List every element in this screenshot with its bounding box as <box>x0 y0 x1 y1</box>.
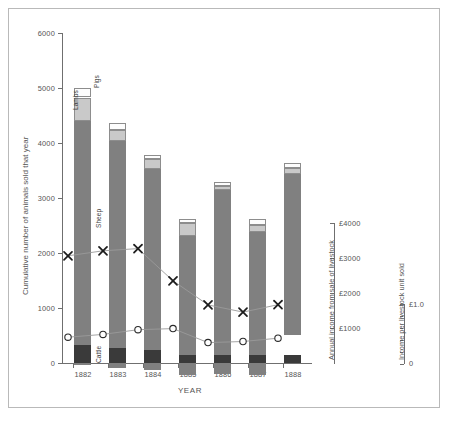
bar-segment-cattle-1882 <box>74 345 91 363</box>
x-tick-label-1883: 1883 <box>103 370 133 379</box>
income-line <box>68 249 278 313</box>
bar-segment-lambs-1887 <box>249 225 266 232</box>
y-tick-2000 <box>58 253 62 254</box>
bar-1888[interactable] <box>284 33 301 363</box>
bar-1886[interactable] <box>214 33 231 363</box>
right-2-tick-0 <box>400 364 404 365</box>
series-label-pigs: Pigs <box>93 75 100 88</box>
bar-segment-cattle-1884 <box>144 350 161 363</box>
x-tick-label-1882: 1882 <box>68 370 98 379</box>
bar-segment-cattle-1888 <box>284 355 301 363</box>
bar-1882[interactable] <box>74 33 91 363</box>
bar-segment-cattle-1885 <box>179 355 196 363</box>
bar-1884[interactable] <box>144 33 161 363</box>
x-tick-label-1884: 1884 <box>138 370 168 379</box>
bar-segment-cattle-1883 <box>109 348 126 363</box>
series-label-lambs: Lambs <box>72 90 79 110</box>
chart-plot-area: 6000 5000 4000 3000 2000 1000 0 Cumulati… <box>0 0 451 421</box>
left-axis-line <box>62 33 63 364</box>
series-label-cattle: Cattle <box>95 346 102 363</box>
right-1-tick-4000 <box>330 223 334 224</box>
x-tick-label-1888: 1888 <box>278 370 308 379</box>
y-tick-label-6000: 6000 <box>24 29 55 38</box>
chart-page: 6000 5000 4000 3000 2000 1000 0 Cumulati… <box>0 0 451 421</box>
y-tick-4000 <box>58 143 62 144</box>
bar-segment-pigs-1883 <box>109 123 126 130</box>
right-2-label-0: 0 <box>409 359 413 368</box>
bar-segment-sheep-1886 <box>214 190 231 374</box>
bar-segment-sheep-1882 <box>74 121 91 366</box>
right-axis-1-title: Annual income from sale of livestock <box>327 240 336 360</box>
right-axis-2-title: Income per livestock unit sold <box>397 263 406 360</box>
income-per-unit-line <box>68 329 278 343</box>
bar-segment-sheep-1885 <box>179 236 196 375</box>
right-1-label-1000: £1000 <box>339 324 361 333</box>
bar-segment-cattle-1886 <box>214 355 231 364</box>
series-label-sheep: Sheep <box>95 209 102 228</box>
bar-segment-cattle-1887 <box>249 355 266 363</box>
right-1-label-3000: £3000 <box>339 254 361 263</box>
y-tick-1000 <box>58 308 62 309</box>
y-tick-5000 <box>58 88 62 89</box>
bar-segment-lambs-1883 <box>109 130 126 141</box>
bar-1885[interactable] <box>179 33 196 363</box>
bar-segment-sheep-1887 <box>249 232 266 375</box>
bar-segment-sheep-1883 <box>109 141 126 368</box>
bar-segment-lambs-1885 <box>179 223 196 236</box>
right-2-label-1-0: £1.0 <box>409 300 424 309</box>
y-tick-6000 <box>58 33 62 34</box>
right-1-label-4000: £4000 <box>339 219 361 228</box>
bar-segment-sheep-1884 <box>144 169 161 370</box>
bar-segment-lambs-1884 <box>144 159 161 169</box>
bar-segment-sheep-1888 <box>284 174 301 335</box>
x-axis-title: YEAR <box>150 386 230 395</box>
right-1-label-2000: £2000 <box>339 289 361 298</box>
y-tick-label-1000: 1000 <box>24 304 55 313</box>
bar-1887[interactable] <box>249 33 266 363</box>
y-tick-label-0: 0 <box>24 359 55 368</box>
x-tick-1888 <box>283 364 284 368</box>
y-axis-title: Cumulative number of animals sold that y… <box>21 137 30 295</box>
y-tick-3000 <box>58 198 62 199</box>
bar-1883[interactable] <box>109 33 126 363</box>
y-tick-label-5000: 5000 <box>24 84 55 93</box>
